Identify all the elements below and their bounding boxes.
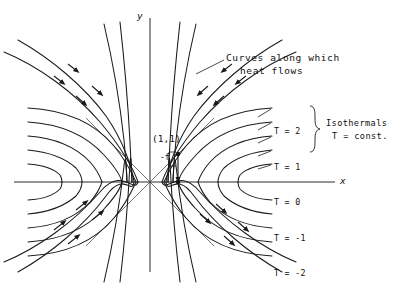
isothermal-Tm1-right-lower [218,182,272,214]
flow-curve-ul-2 [18,40,134,182]
arrow-ll-2 [68,236,78,244]
flow-annotation-line2: heat flows [240,65,303,78]
flow-curve-lr-3 [173,160,196,282]
point-label: (1,1) [152,133,181,146]
heat-flow-diagram: Curves along which heat flows T = 2 T = … [0,0,395,283]
arrow-ur-2 [223,64,232,71]
flow-curve-ul-1 [4,52,138,182]
flow-curve-ll-1 [4,181,138,262]
isothermal-label-tm1: T = -1 [274,233,306,246]
isothermal-label-list: T = 2 T = 1 T = 0 T = -1 T = -2 [274,104,306,283]
x-axis-label: x [340,175,346,188]
flow-annotation-line1: Curves along which [226,52,340,65]
isothermal-T2-left [28,108,136,182]
point-foot-marker [176,180,180,184]
isothermal-brace [310,106,320,152]
isothermal-T2-left-lower [28,182,136,256]
leader-T1 [258,123,271,130]
flow-curve-ll-4 [120,158,132,282]
isothermal-Tm1-right [218,150,272,182]
isothermal-Tm2-left-lower [28,182,62,200]
arrow-lr-2 [224,236,233,244]
leader-flow [196,60,224,74]
vector-label: -f [160,153,170,164]
isothermal-Tm1-left [28,150,82,182]
arrow-ur-4 [199,86,208,94]
arrow-lr-4 [200,214,209,222]
y-axis-label: y [137,10,143,23]
isothermal-Tm2-left [28,164,62,182]
arrow-ll-4 [92,212,102,220]
leader-T2 [258,109,271,117]
isothermal-label-tm2: T = -2 [274,268,306,281]
arrow-ul-3 [76,96,85,104]
isothermal-T2-right-lower [164,182,272,256]
arrow-ul-2 [68,64,77,71]
isothermal-Tm2-right-lower [238,182,272,200]
isothermal-label-t1: T = 1 [274,162,306,175]
isothermal-heading-line2: T = const. [332,131,388,143]
isothermal-label-t0: T = 0 [274,197,306,210]
isothermal-label-t2: T = 2 [274,126,306,139]
arrow-ul-4 [92,86,101,94]
flow-curve-ll-3 [104,160,127,282]
isothermal-Tm2-right [238,164,272,182]
arrow-ur-3 [215,96,224,104]
isothermal-Tm1-left-lower [28,182,82,214]
arrow-ul-1 [54,76,63,83]
isothermal-heading-line1: Isothermals [326,118,387,130]
